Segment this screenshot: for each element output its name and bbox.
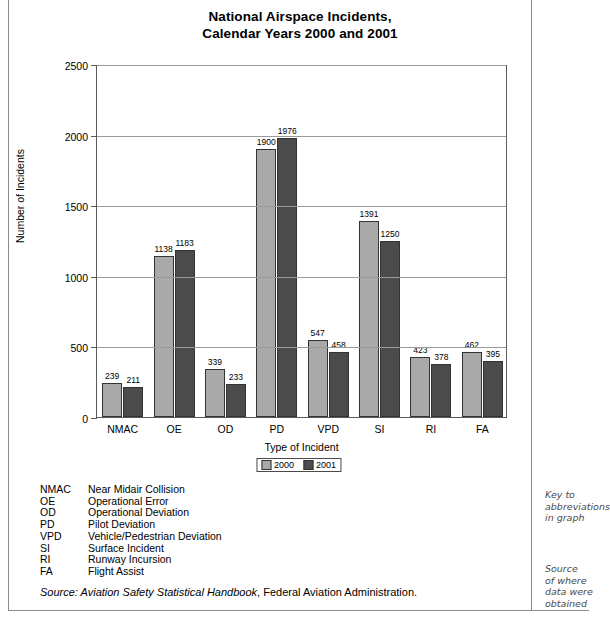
bar-value-label: 339 [208,358,222,367]
legend-swatch-2000 [261,460,271,470]
annotation-column-divider [531,0,532,610]
bar-RI-2001 [431,364,451,417]
y-tick-label: 1500 [65,201,88,213]
key-row: NMACNear Midair Collision [40,484,222,496]
bar-value-label: 1138 [154,245,172,254]
page-left-rule [8,0,9,610]
y-tick-label: 2000 [65,131,88,143]
source-title: Source: Aviation Safety Statistical Hand… [40,586,257,598]
annotation-source-note-line: obtained [545,598,593,610]
x-axis-label: Type of Incident [96,441,507,453]
page-bottom-rule [8,610,589,611]
chart-title-line-2: Calendar Years 2000 and 2001 [100,25,500,42]
key-row: FAFlight Assist [40,566,222,578]
gridline [97,277,506,278]
bar-group: 547458VPD [308,66,349,417]
y-tick-label: 2500 [65,60,88,72]
bar-SI-2001 [380,241,400,418]
bar-VPD-2000 [308,340,328,417]
x-tick-label-FA: FA [476,423,489,435]
bar-value-label: 211 [126,376,140,385]
legend-item-2000: 2000 [261,460,294,470]
y-tick-mark [91,418,97,419]
bar-value-label: 395 [486,350,500,359]
bar-NMAC-2001 [123,387,143,417]
bar-OD-2000 [205,369,225,417]
y-tick-label: 500 [70,342,88,354]
bar-group: 239211NMAC [102,66,143,417]
bar-VPD-2001 [329,352,349,417]
bar-group: 13911250SI [359,66,400,417]
annotation-key-note-line: in graph [545,512,610,524]
source-line: Source: Aviation Safety Statistical Hand… [40,586,417,598]
gridline [97,65,506,66]
bar-group: 19001976PD [256,66,297,417]
legend-label-2000: 2000 [274,460,294,470]
chart-title: National Airspace Incidents, Calendar Ye… [100,8,500,42]
y-axis-label: Number of Incidents [14,149,26,243]
key-description: Flight Assist [88,566,144,578]
bar-NMAC-2000 [102,383,122,417]
bar-value-label: 1900 [257,138,276,147]
x-tick-label-RI: RI [426,423,437,435]
y-tick-mark [91,277,97,278]
x-tick-label-SI: SI [375,423,385,435]
legend-label-2001: 2001 [316,460,336,470]
bar-value-label: 1183 [175,239,193,248]
bar-group: 11381183OE [154,66,195,417]
bar-value-label: 462 [465,341,479,350]
bar-value-label: 547 [311,329,325,338]
bar-OE-2000 [154,256,174,417]
key-abbreviation: VPD [40,531,88,543]
gridline [97,347,506,348]
legend-swatch-2001 [303,460,313,470]
bar-group: 462395FA [462,66,503,417]
x-tick-label-OE: OE [166,423,181,435]
y-tick-label: 0 [82,413,88,425]
x-tick-label-OD: OD [218,423,234,435]
y-tick-mark [91,65,97,66]
annotation-key-note-line: abbreviations [545,501,610,513]
y-tick-mark [91,206,97,207]
bar-SI-2000 [359,221,379,417]
bar-value-label: 239 [105,372,119,381]
x-tick-label-PD: PD [270,423,285,435]
bar-FA-2001 [483,361,503,417]
annotation-key-note-line: Key to [545,489,610,501]
bar-value-label: 233 [229,373,243,382]
y-tick-label: 1000 [65,272,88,284]
annotation-source-note-line: Source [545,563,593,575]
x-tick-label-NMAC: NMAC [107,423,138,435]
abbreviation-key: NMACNear Midair CollisionOEOperational E… [40,484,222,578]
bar-OE-2001 [175,250,195,417]
annotation-source-note-line: of where [545,575,593,587]
bar-group: 339233OD [205,66,246,417]
bar-RI-2000 [410,357,430,417]
y-tick-mark [91,136,97,137]
key-description: Vehicle/Pedestrian Deviation [88,531,222,543]
gridline [97,206,506,207]
key-row: VPDVehicle/Pedestrian Deviation [40,531,222,543]
gridline [97,136,506,137]
legend-item-2001: 2001 [303,460,336,470]
source-publisher: , Federal Aviation Administration. [257,586,417,598]
bar-series-container: 239211NMAC11381183OE339233OD19001976PD54… [97,66,506,417]
bar-value-label: 1250 [381,230,400,239]
annotation-source-note-line: data were [545,586,593,598]
key-description: Near Midair Collision [88,484,185,496]
bar-PD-2000 [256,149,276,417]
chart-legend: 20002001 [256,458,341,472]
y-tick-mark [91,347,97,348]
bar-value-label: 1391 [360,210,379,219]
key-abbreviation: FA [40,566,88,578]
bar-FA-2000 [462,352,482,417]
annotation-source-note: Sourceof wheredata wereobtained [545,563,593,609]
bar-value-label: 458 [332,341,346,350]
bar-group: 423378RI [410,66,451,417]
key-abbreviation: NMAC [40,484,88,496]
x-tick-label-VPD: VPD [317,423,339,435]
annotation-key-note: Key toabbreviationsin graph [545,489,610,524]
bar-value-label: 378 [434,353,448,362]
chart-title-line-1: National Airspace Incidents, [100,8,500,25]
